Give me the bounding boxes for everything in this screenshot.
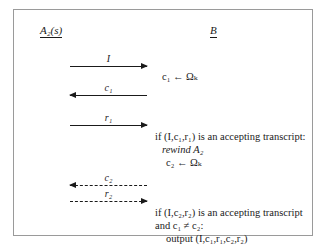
note-block1-line3: c₂ ← Ωₖ	[155, 156, 305, 169]
message-label-r1: r₁	[70, 112, 147, 123]
note-block2-line1: if (I,c₂,r₂) is an accepting transcript	[155, 206, 303, 219]
participant-label-left: A₂(s)	[40, 24, 62, 38]
arrow-line-i	[70, 66, 147, 67]
arrowhead-right-icon	[141, 122, 148, 128]
message-arrow-r1: r₁	[70, 125, 147, 126]
note-block2-line3: output (I,c₁,r₁,c₂,r₂)	[155, 232, 303, 245]
message-label-c2: c₂	[70, 172, 147, 183]
note-assign-c1: c₁ ← Ωₖ	[155, 70, 198, 83]
message-arrow-c2: c₂	[70, 185, 147, 186]
message-arrow-i: I	[70, 66, 147, 67]
note-block-first-check: if (I,c₁,r₁) is an accepting transcript:…	[155, 130, 305, 169]
message-arrow-c1: c₁	[70, 95, 147, 96]
arrowhead-left-icon	[69, 92, 76, 98]
arrow-line-r2	[70, 201, 147, 202]
participant-label-right: B	[210, 24, 217, 38]
arrow-line-r1	[70, 125, 147, 126]
note-block1-line1: if (I,c₁,r₁) is an accepting transcript:	[155, 130, 305, 143]
arrowhead-right-icon	[141, 198, 148, 204]
note-block-second-check: if (I,c₂,r₂) is an accepting transcript …	[155, 206, 303, 245]
note-assign-c1-line: c₁ ← Ωₖ	[155, 70, 198, 83]
note-block2-line2: and c₁ ≠ c₂:	[155, 219, 303, 232]
message-label-i: I	[70, 53, 147, 64]
arrow-line-c2	[70, 185, 147, 186]
note-block1-line2: rewind A₂	[155, 143, 305, 156]
message-label-c1: c₁	[70, 82, 147, 93]
arrowhead-right-icon	[141, 63, 148, 69]
message-arrow-r2: r₂	[70, 201, 147, 202]
arrow-line-c1	[70, 95, 147, 96]
message-label-r2: r₂	[70, 188, 147, 199]
figure-frame: A₂(s) B I c₁ r₁ c₂ r₂ c₁ ← Ωₖ if (I,c₁,r…	[13, 9, 313, 236]
